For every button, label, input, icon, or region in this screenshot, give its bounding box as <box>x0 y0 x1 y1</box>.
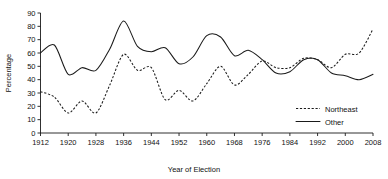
y-tick-label: 90 <box>27 9 35 18</box>
y-tick-label: 20 <box>27 102 35 111</box>
y-tick-label: 10 <box>27 115 35 124</box>
x-tick-label: 1920 <box>60 138 77 147</box>
y-axis-tick-labels: 0102030405060708090 <box>27 9 35 138</box>
y-tick-label: 70 <box>27 35 35 44</box>
x-tick-label: 1992 <box>309 138 326 147</box>
y-tick-label: 60 <box>27 49 35 58</box>
series-line-northeast <box>41 29 374 113</box>
x-tick-label: 2000 <box>337 138 354 147</box>
legend: Northeast Other <box>296 105 358 127</box>
y-axis-title: Percentage <box>4 54 13 92</box>
line-chart: 0102030405060708090 19121920192819361944… <box>0 0 388 179</box>
y-tick-label: 80 <box>27 22 35 31</box>
x-tick-label: 1960 <box>198 138 215 147</box>
x-axis-title: Year of Election <box>168 165 220 174</box>
x-tick-label: 1984 <box>282 138 299 147</box>
x-tick-label: 1928 <box>88 138 105 147</box>
x-tick-label: 1944 <box>143 138 160 147</box>
x-tick-label: 1952 <box>171 138 188 147</box>
x-tick-label: 1976 <box>254 138 271 147</box>
y-tick-label: 50 <box>27 62 35 71</box>
x-tick-label: 1912 <box>32 138 49 147</box>
series-line-other <box>41 21 374 80</box>
chart-figure: 0102030405060708090 19121920192819361944… <box>0 0 388 179</box>
x-tick-label: 2008 <box>365 138 382 147</box>
y-tick-label: 40 <box>27 75 35 84</box>
x-tick-label: 1968 <box>226 138 243 147</box>
x-axis-tick-labels: 1912192019281936194419521960196819761984… <box>32 138 381 147</box>
legend-label-northeast: Northeast <box>325 105 358 114</box>
x-tick-label: 1936 <box>115 138 132 147</box>
legend-label-other: Other <box>325 118 344 127</box>
y-tick-label: 30 <box>27 89 35 98</box>
y-tick-label: 0 <box>31 129 35 138</box>
